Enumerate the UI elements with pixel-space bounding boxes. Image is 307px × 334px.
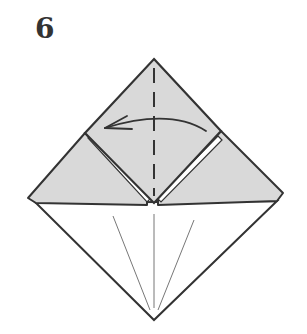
origami-diagram [0, 0, 307, 334]
bottom-triangle [36, 201, 277, 320]
